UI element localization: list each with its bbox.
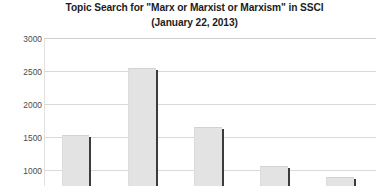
y-tick-label-1500: 1500 — [2, 134, 42, 143]
y-tick-label-2500: 2500 — [2, 68, 42, 77]
gridline-2000 — [44, 104, 376, 105]
chart-title-line-1: Topic Search for "Marx or Marxist or Mar… — [0, 1, 389, 16]
bar-5-shadow — [354, 179, 356, 186]
chart-screenshot: Topic Search for "Marx or Marxist or Mar… — [0, 0, 389, 186]
gridline-3000 — [44, 38, 376, 39]
chart-title: Topic Search for "Marx or Marxist or Mar… — [0, 1, 389, 30]
bar-1 — [62, 135, 89, 186]
bar-3-shadow — [222, 129, 224, 186]
chart-title-line-2: (January 22, 2013) — [0, 16, 389, 31]
y-tick-label-3000: 3000 — [2, 35, 42, 44]
y-tick-label-1000: 1000 — [2, 167, 42, 176]
bar-2-shadow — [156, 70, 158, 186]
bar-4-shadow — [288, 168, 290, 186]
bar-3 — [194, 127, 222, 186]
bar-1-shadow — [89, 137, 91, 186]
bar-2 — [128, 68, 156, 186]
y-tick-label-2000: 2000 — [2, 101, 42, 110]
plot-area — [44, 38, 376, 186]
bar-4 — [260, 166, 288, 186]
bar-5 — [326, 177, 354, 186]
gridline-2500 — [44, 71, 376, 72]
